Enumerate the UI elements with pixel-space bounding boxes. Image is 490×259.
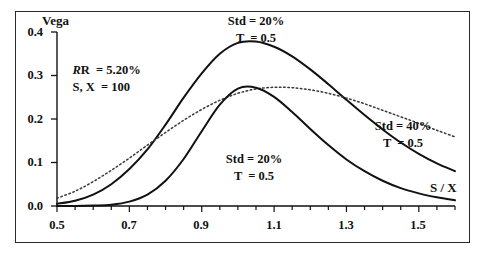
y-tick-label-0.3: 0.3 xyxy=(13,68,43,83)
x-tick-label-0.7: 0.7 xyxy=(111,218,147,233)
y-axis-title: Vega xyxy=(42,13,69,28)
x-tick-label-0.9: 0.9 xyxy=(183,218,219,233)
y-tick-marks xyxy=(51,32,57,206)
y-tick-label-0.1: 0.1 xyxy=(13,155,43,170)
x-tick-label-1.5: 1.5 xyxy=(400,218,436,233)
x-tick-label-1.3: 1.3 xyxy=(328,218,364,233)
x-tick-marks xyxy=(57,206,455,212)
x-tick-label-0.5: 0.5 xyxy=(39,218,75,233)
label-bottom-curve-std: Std = 20% xyxy=(194,152,314,167)
label-top-curve-maturity: T = 0.5 xyxy=(196,31,316,46)
label-bottom-curve-maturity: T = 0.5 xyxy=(194,169,314,184)
annotation-spot-strike-value: S, X = 100 xyxy=(73,80,130,94)
y-tick-label-0.4: 0.4 xyxy=(13,25,43,40)
x-axis-title: S / X xyxy=(430,180,457,195)
y-tick-label-0.0: 0.0 xyxy=(13,199,43,214)
y-tick-label-0.2: 0.2 xyxy=(13,112,43,127)
figure-root: 0.4 0.3 0.2 0.1 0.0 0.5 0.7 0.9 1.1 1.3 … xyxy=(0,0,490,259)
label-top-curve-std: Std = 20% xyxy=(196,14,316,29)
x-tick-label-1.1: 1.1 xyxy=(256,218,292,233)
label-right-curve-maturity: T = 0.5 xyxy=(348,136,458,151)
label-right-curve-std: Std = 40% xyxy=(348,119,458,134)
annotation-spot-strike: S, X = 100 xyxy=(60,65,130,109)
